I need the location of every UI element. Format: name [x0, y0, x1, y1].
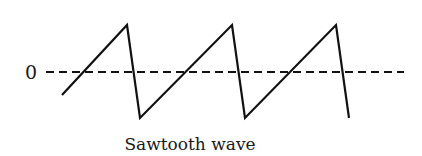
- background: [0, 0, 422, 156]
- zero-axis-label: 0: [25, 61, 37, 83]
- figure-caption: Sawtooth wave: [124, 134, 255, 154]
- sawtooth-wave-diagram: 0 Sawtooth wave: [0, 0, 422, 156]
